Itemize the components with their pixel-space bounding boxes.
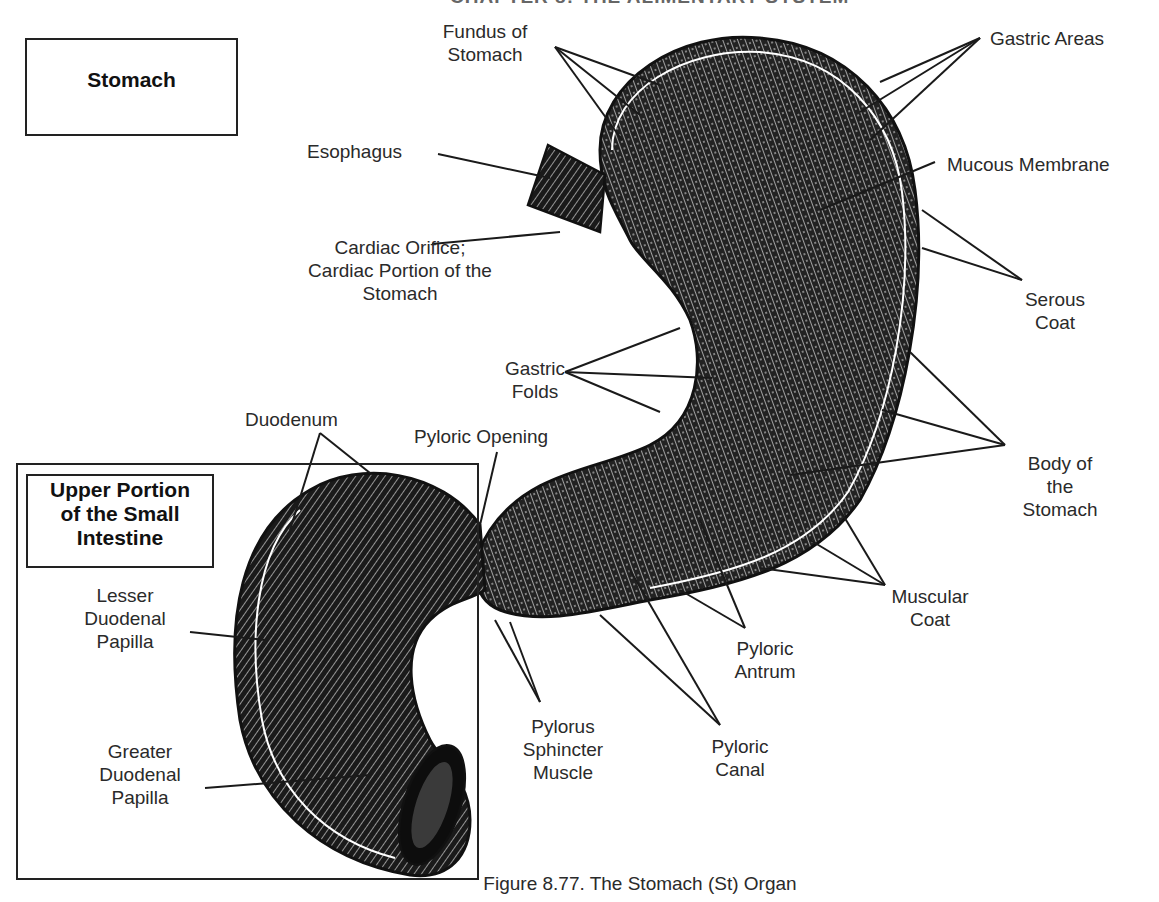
label-greater-duodenal-papilla: Greater Duodenal Papilla bbox=[75, 740, 205, 809]
label-serous-coat: Serous Coat bbox=[1005, 288, 1105, 334]
label-mucous-membrane: Mucous Membrane bbox=[947, 153, 1110, 176]
label-pyloric-antrum: Pyloric Antrum bbox=[720, 637, 810, 683]
label-esophagus: Esophagus bbox=[307, 140, 402, 163]
label-pylorus-sphincter-muscle: Pylorus Sphincter Muscle bbox=[518, 715, 608, 784]
label-muscular-coat: Muscular Coat bbox=[870, 585, 990, 631]
esophagus-tube bbox=[528, 145, 605, 232]
label-cardiac-orifice: Cardiac Orifice; Cardiac Portion of the … bbox=[275, 236, 525, 305]
label-pyloric-canal: Pyloric Canal bbox=[700, 735, 780, 781]
figure-caption: Figure 8.77. The Stomach (St) Organ bbox=[480, 872, 800, 895]
stomach-title: Stomach bbox=[25, 68, 238, 92]
label-gastric-folds: Gastric Folds bbox=[495, 357, 575, 403]
label-body-of-stomach: Body of the Stomach bbox=[1005, 452, 1115, 521]
label-pyloric-opening: Pyloric Opening bbox=[414, 425, 548, 448]
label-fundus-of-stomach: Fundus of Stomach bbox=[410, 20, 560, 66]
label-lesser-duodenal-papilla: Lesser Duodenal Papilla bbox=[60, 584, 190, 653]
label-duodenum: Duodenum bbox=[245, 408, 338, 431]
label-gastric-areas: Gastric Areas bbox=[990, 27, 1104, 50]
upper-small-intestine-title: Upper Portion of the Small Intestine bbox=[26, 478, 214, 550]
